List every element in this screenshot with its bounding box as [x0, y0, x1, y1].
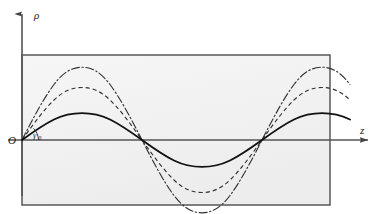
rho-axis-label: ρ — [33, 9, 39, 21]
origin-label: O — [8, 134, 16, 146]
z-axis-label: z — [359, 124, 365, 136]
launch-angle-subscript: 0 — [39, 135, 42, 141]
ray-trajectory-figure: ρ z O γ 0 — [0, 0, 386, 214]
